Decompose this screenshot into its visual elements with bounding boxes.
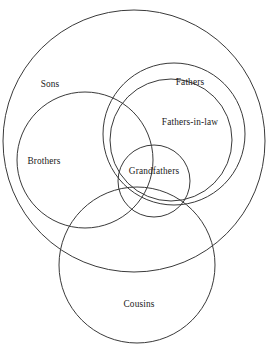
label-cousins: Cousins <box>123 299 154 309</box>
label-sons: Sons <box>41 79 60 89</box>
circle-grandfathers <box>118 145 190 217</box>
circle-fathers-in-law <box>110 79 232 201</box>
venn-diagram-container: Sons Brothers Fathers Fathers-in-law Gra… <box>0 0 272 353</box>
label-fathers-in-law: Fathers-in-law <box>162 117 218 127</box>
circle-sons <box>3 10 265 272</box>
circle-cousins <box>59 187 215 343</box>
circle-fathers <box>103 63 245 205</box>
label-grandfathers: Grandfathers <box>129 166 180 176</box>
venn-diagram-canvas: Sons Brothers Fathers Fathers-in-law Gra… <box>0 0 272 353</box>
label-brothers: Brothers <box>27 156 60 166</box>
label-fathers: Fathers <box>176 77 205 87</box>
